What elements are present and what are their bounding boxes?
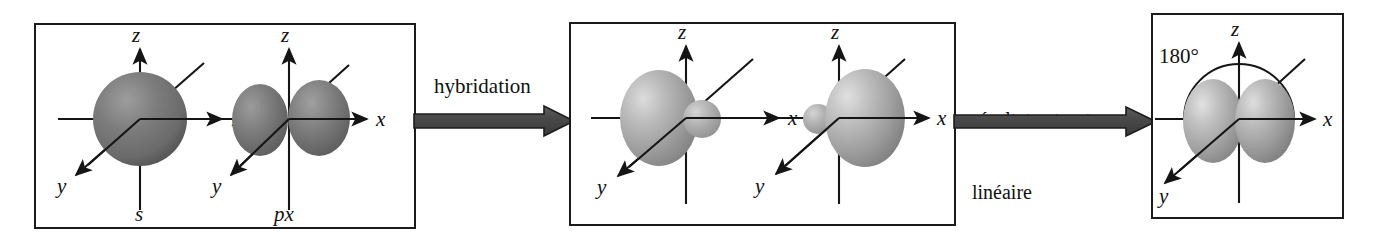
pair-x-label: x: [1322, 107, 1333, 131]
sp-hybrid-right-group: x y z: [753, 24, 947, 204]
figure-canvas: x y z s x y z px: [0, 0, 1374, 238]
p-orbital-z-label: z: [280, 25, 289, 47]
sp-hybrid-left-group: x y z: [591, 24, 798, 204]
arrow-hybridation-shape: [414, 106, 574, 136]
pair-lobe-right: [1235, 79, 1295, 163]
s-orbital-name-label: s: [135, 202, 143, 226]
p-orbital-name-label: px: [272, 202, 295, 226]
atomic-orbitals-svg: x y z s x y z px: [36, 25, 414, 227]
panel-linear-structure: x y z 180°: [1151, 13, 1344, 219]
p-orbital-y-label: y: [210, 174, 222, 198]
p-orbital-lobe-left: [232, 84, 288, 156]
sp-hybrid-right-x-label: x: [936, 106, 947, 130]
sp-hybrid-pair-group: x y z 180°: [1155, 17, 1333, 208]
sp-hybrid-right-y-label: y: [753, 174, 765, 198]
arrow-resultat-shape: [954, 107, 1156, 136]
p-orbital-x-label: x: [375, 107, 386, 131]
angle-label-180: 180°: [1159, 44, 1199, 68]
resultat-caption-line2: linéaire: [972, 180, 1116, 204]
pair-z-label: z: [1230, 17, 1239, 41]
hybrid-orbitals-svg: x y z x y z: [571, 24, 954, 224]
p-orbital-group: x y z px: [210, 25, 386, 226]
pair-lobe-left: [1183, 79, 1243, 163]
sp-hybrid-left-z-label: z: [677, 24, 686, 44]
linear-structure-svg: x y z 180°: [1153, 15, 1342, 217]
panel-hybrid-orbitals: x y z x y z: [569, 22, 956, 226]
arrow-hybridation: [412, 104, 576, 140]
pair-y-label: y: [1157, 184, 1169, 208]
panel-atomic-orbitals: x y z s x y z px: [34, 23, 416, 229]
resultat-caption: résultat : structure linéaire: [972, 58, 1116, 238]
sp-hybrid-left-y-label: y: [595, 175, 607, 199]
sp-hybrid-right-z-label: z: [830, 24, 839, 44]
arrow-resultat: [952, 104, 1158, 140]
hybridation-caption: hybridation: [434, 74, 531, 100]
s-orbital-y-label: y: [55, 174, 67, 198]
s-orbital-z-label: z: [131, 25, 140, 47]
